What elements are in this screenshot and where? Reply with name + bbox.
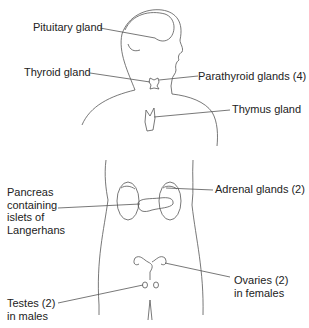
torso-right	[192, 160, 203, 315]
kidney-left	[117, 182, 139, 220]
torso-left	[98, 160, 108, 315]
label-adrenal: Adrenal glands (2)	[215, 183, 305, 196]
label-thyroid: Thyroid gland	[24, 66, 91, 79]
label-testes: Testes (2) in males	[7, 297, 55, 322]
uterus-shape	[134, 257, 166, 280]
label-thymus: Thymus gland	[232, 103, 301, 116]
label-parathyroid: Parathyroid glands (4)	[198, 70, 306, 83]
testis-left	[143, 282, 148, 288]
kidney-right	[159, 182, 181, 220]
testis-right	[154, 282, 159, 288]
label-ovaries: Ovaries (2) in females	[234, 274, 288, 299]
label-pancreas: Pancreas containing islets of Langerhans	[7, 186, 65, 236]
thyroid-shape	[149, 78, 159, 89]
label-pituitary: Pituitary gland	[33, 21, 103, 34]
thymus-shape	[145, 108, 155, 131]
pancreas-shape	[138, 198, 173, 212]
